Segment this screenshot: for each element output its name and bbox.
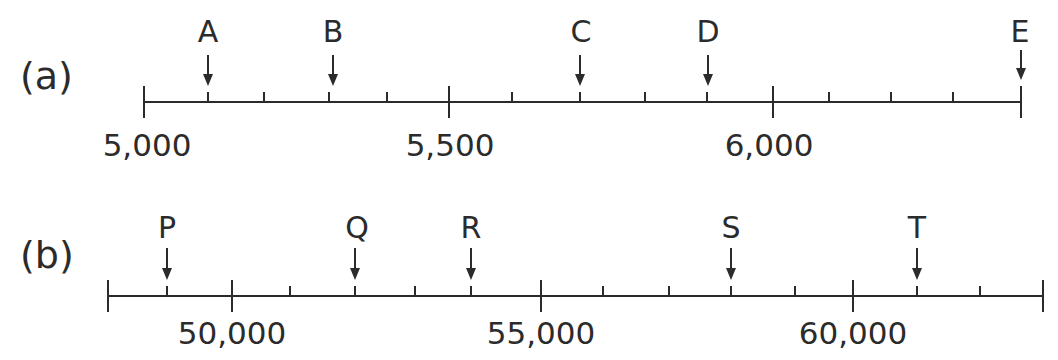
part-label-b: (b) [20,236,74,274]
tick-label: 55,000 [487,318,595,349]
tick-label: 5,500 [406,130,495,161]
marker-label: D [696,17,719,47]
marker-label: A [198,17,219,47]
marker-label: R [461,213,482,243]
marker-label: E [1011,17,1030,47]
tick-label: 6,000 [725,130,814,161]
tick-label: 5,000 [103,130,192,161]
marker-label: S [721,213,740,243]
arrow-down-icon [203,50,1026,86]
marker-label: C [571,17,592,47]
marker-label: Q [345,213,369,243]
marker-label: B [323,17,344,47]
arrow-down-icon [162,248,922,280]
tick-label: 60,000 [799,318,907,349]
tick-label: 50,000 [178,318,286,349]
marker-label: T [908,213,926,243]
marker-label: P [158,213,176,243]
